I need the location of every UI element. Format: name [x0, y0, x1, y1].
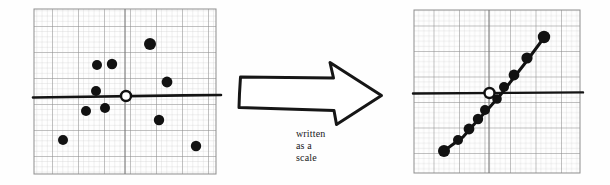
data-point	[100, 103, 110, 113]
data-point	[92, 60, 102, 70]
data-point	[480, 105, 490, 115]
data-point	[107, 59, 117, 69]
left-origin-open-marker	[121, 91, 131, 101]
data-point	[538, 31, 550, 43]
data-point	[438, 145, 450, 157]
data-point	[81, 106, 91, 116]
data-point	[191, 141, 201, 151]
data-point	[473, 114, 483, 124]
data-point	[162, 77, 173, 88]
caption-line-3: scale	[296, 152, 366, 164]
arrow-outline	[239, 63, 382, 125]
right-origin-open-marker	[485, 88, 495, 98]
transformation-arrow	[239, 63, 382, 125]
data-point	[509, 70, 520, 81]
data-point	[464, 124, 475, 135]
left-scatter-panel	[33, 9, 221, 174]
data-point	[521, 52, 532, 63]
data-point	[154, 115, 164, 125]
caption-line-1: written	[296, 128, 366, 140]
data-point	[58, 135, 68, 145]
arrow-caption: written as a scale	[296, 128, 366, 165]
caption-line-2: as a	[296, 140, 366, 152]
data-point	[144, 38, 156, 50]
data-point	[453, 135, 463, 145]
right-horizontal-reference-line	[413, 92, 583, 93]
data-point	[499, 82, 509, 92]
data-point	[91, 86, 101, 96]
right-line-panel	[413, 10, 583, 173]
figure-canvas: written as a scale	[0, 0, 610, 185]
